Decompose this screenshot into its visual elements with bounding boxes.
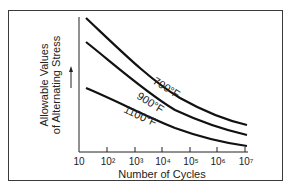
x-tick-label: 10⁴ [155, 156, 170, 167]
x-tick-label: 10⁶ [210, 156, 225, 167]
x-axis-label: Number of Cycles [118, 168, 206, 180]
up-arrow-icon [69, 66, 73, 88]
x-tick-label: 10³ [129, 156, 144, 167]
x-tick-label: 10² [101, 156, 116, 167]
y-axis-label-line1: Allowable Values [38, 43, 50, 126]
x-tick-label: 10⁷ [239, 156, 254, 167]
curve-700F [86, 18, 247, 125]
x-ticks [107, 147, 245, 152]
x-tick-label: 10⁵ [183, 156, 198, 167]
x-tick-label: 10 [73, 156, 85, 167]
chart: 10 10² 10³ 10⁴ 10⁵ 10⁶ 10⁷ Number of Cyc… [0, 0, 289, 190]
y-axis-label-line2: of Alternating Stress [50, 35, 62, 134]
